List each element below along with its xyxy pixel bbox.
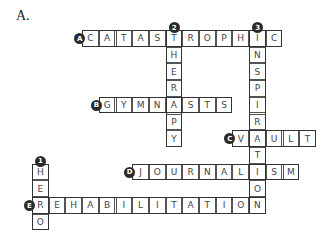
crossword-cell[interactable]: H [166,47,183,64]
crossword-cell[interactable]: R [182,164,199,181]
crossword-cell[interactable]: C [266,30,283,47]
crossword-cell[interactable]: L [283,130,300,147]
crossword-cell[interactable]: N [149,97,166,114]
crossword-cell[interactable]: U [266,130,283,147]
crossword-cell[interactable]: A [249,130,266,147]
crossword-cell[interactable]: T [199,197,216,214]
crossword-cell[interactable]: I [216,197,233,214]
crossword-cell[interactable]: P [166,114,183,131]
crossword-cell[interactable]: N [249,197,266,214]
crossword-cell[interactable]: E [32,180,49,197]
crossword-cell[interactable]: U [166,164,183,181]
crossword-cell[interactable]: O [32,214,49,231]
crossword-cell[interactable]: O [199,30,216,47]
crossword-cell[interactable]: A [182,197,199,214]
crossword-cell[interactable]: I [249,97,266,114]
crossword-cell[interactable]: L [132,197,149,214]
crossword-cell[interactable]: T [199,97,216,114]
crossword-cell[interactable]: S [149,30,166,47]
crossword-cell[interactable]: S [249,63,266,80]
crossword-cell[interactable]: Y [116,97,133,114]
crossword-cell[interactable]: I [149,197,166,214]
crossword-cell[interactable]: P [249,80,266,97]
crossword-cell[interactable]: T [166,197,183,214]
crossword-cell[interactable]: B [99,197,116,214]
puzzle-heading: A. [16,8,30,24]
crossword-cell[interactable]: M [132,97,149,114]
crossword-cell[interactable]: A [166,97,183,114]
crossword-cell[interactable]: S [216,97,233,114]
clue-number-badge: 1 [35,156,46,167]
crossword-cell[interactable]: O [232,197,249,214]
crossword-cell[interactable]: A [132,30,149,47]
crossword-cell[interactable]: T [249,147,266,164]
clue-number-badge: E [24,200,35,211]
crossword-cell[interactable]: A [82,197,99,214]
crossword-cell[interactable]: S [266,164,283,181]
crossword-cell[interactable]: S [182,97,199,114]
crossword-cell[interactable]: N [249,47,266,64]
crossword-cell[interactable]: R [249,114,266,131]
crossword-cell[interactable]: T [116,30,133,47]
crossword-cell[interactable]: H [65,197,82,214]
crossword-cell[interactable]: N [199,164,216,181]
crossword-cell[interactable]: M [283,164,300,181]
crossword-cell[interactable]: H [232,30,249,47]
crossword-cell[interactable]: E [49,197,66,214]
crossword-cell[interactable]: A [99,30,116,47]
crossword-cell[interactable]: R [182,30,199,47]
crossword-cell[interactable]: L [232,164,249,181]
clue-number-badge: 2 [169,22,180,33]
crossword-cell[interactable]: I [249,164,266,181]
crossword-cell[interactable]: Y [166,130,183,147]
crossword-cell[interactable]: A [216,164,233,181]
crossword-cell[interactable]: O [249,180,266,197]
crossword-cell[interactable]: O [149,164,166,181]
crossword-cell[interactable]: E [166,63,183,80]
clue-number-badge: B [91,100,102,111]
crossword-cell[interactable]: P [216,30,233,47]
crossword-cell[interactable]: T [299,130,316,147]
crossword-cell[interactable]: R [166,80,183,97]
clue-number-badge: D [124,167,135,178]
crossword-cell[interactable]: I [116,197,133,214]
